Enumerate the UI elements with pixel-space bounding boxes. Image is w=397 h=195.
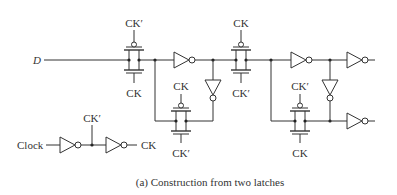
flip-flop-circuit-diagram: D CK′ CK CK CK′ (0, 0, 397, 195)
clock-ck-label: CK (141, 139, 156, 151)
tg1-bottom-label: CK (126, 87, 141, 99)
tg3-bottom-label: CK′ (232, 87, 250, 99)
output-inverter-q-icon (347, 52, 368, 68)
slave-forward-inverter-icon (291, 52, 312, 68)
clock-ck-prime-label: CK′ (83, 112, 101, 124)
pmos-bubble-icon (179, 103, 184, 108)
clock-inverter-1-icon (60, 137, 81, 153)
pmos-bubble-icon (298, 103, 303, 108)
transmission-gate-1: CK′ CK (124, 17, 144, 99)
tg2-top-label: CK (173, 80, 188, 92)
output-inverter-qbar-icon (347, 113, 368, 129)
master-feedback-inverter-icon (205, 80, 221, 101)
tg4-top-label: CK′ (291, 80, 309, 92)
input-d-label: D (32, 54, 41, 66)
pmos-bubble-icon (239, 42, 244, 47)
tg1-top-label: CK′ (125, 17, 143, 29)
slave-feedback-inverter-icon (322, 80, 338, 101)
transmission-gate-2: CK CK′ (171, 80, 191, 159)
figure-caption: (a) Construction from two latches (136, 176, 284, 189)
tg3-top-label: CK (233, 17, 248, 29)
transmission-gate-4: CK′ CK (290, 80, 310, 159)
tg4-bottom-label: CK (292, 147, 307, 159)
clock-buffer: Clock CK′ CK (17, 112, 156, 153)
tg2-bottom-label: CK′ (172, 147, 190, 159)
master-forward-inverter-icon (174, 52, 195, 68)
clock-input-label: Clock (17, 139, 44, 151)
clock-inverter-2-icon (106, 137, 127, 153)
transmission-gate-3: CK CK′ (231, 17, 251, 99)
pmos-bubble-icon (132, 42, 137, 47)
